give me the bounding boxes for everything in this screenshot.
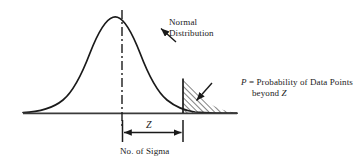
normal-distribution-label: NormalDistribution xyxy=(169,17,214,39)
normal-distribution-line1: Normal xyxy=(169,17,197,27)
shaded-tail-region xyxy=(183,79,237,114)
probability-label: P = Probability of Data Pointsbeyond Z xyxy=(241,77,353,99)
probability-equals-text: = Probability of Data Points xyxy=(247,77,353,87)
probability-beyond-text: beyond xyxy=(252,88,281,98)
normal-distribution-line2: Distribution xyxy=(169,28,214,38)
probability-symbol-z: Z xyxy=(281,88,286,98)
normal-distribution-figure: NormalDistribution P = Probability of Da… xyxy=(0,0,359,167)
z-label: Z xyxy=(146,119,152,130)
probability-leader xyxy=(197,83,213,101)
no-of-sigma-label: No. of Sigma xyxy=(120,146,169,157)
probability-beyond-line: beyond Z xyxy=(241,88,353,99)
